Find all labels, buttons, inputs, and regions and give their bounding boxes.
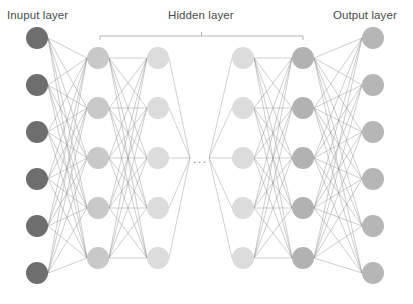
edge-hidden-layer-4-output-layer <box>314 58 362 132</box>
node-hidden-layer-2-5 <box>147 247 169 269</box>
node-output-layer-3 <box>362 121 384 143</box>
node-input-layer-5 <box>26 215 48 237</box>
edge-stub-left <box>209 58 232 158</box>
hidden-bracket-path <box>100 36 303 40</box>
node-hidden-layer-3-3 <box>232 147 254 169</box>
node-input-layer-6 <box>26 262 48 284</box>
node-output-layer-2 <box>362 74 384 96</box>
edge-hidden-layer-4-output-layer <box>314 38 362 258</box>
edge-hidden-layer-4-output-layer <box>314 132 362 158</box>
edge-hidden-layer-4-output-layer <box>314 38 362 158</box>
node-output-layer-1 <box>362 27 384 49</box>
edge-input-layer-hidden-layer-1 <box>48 38 87 208</box>
node-hidden-layer-4-1 <box>292 47 314 69</box>
node-hidden-layer-4-4 <box>292 197 314 219</box>
node-hidden-layer-1-2 <box>87 97 109 119</box>
node-hidden-layer-4-5 <box>292 247 314 269</box>
edge-stub-left <box>209 158 232 208</box>
edge-hidden-layer-4-output-layer <box>314 38 362 208</box>
edge-input-layer-hidden-layer-1 <box>48 258 87 273</box>
edge-hidden-layer-4-output-layer <box>314 85 362 208</box>
edge-hidden-layer-4-output-layer <box>314 85 362 258</box>
edge-stub-left <box>209 108 232 158</box>
node-hidden-layer-1-5 <box>87 247 109 269</box>
edge-hidden-layer-4-output-layer <box>314 85 362 108</box>
edge-input-layer-hidden-layer-1 <box>48 108 87 226</box>
node-hidden-layer-2-2 <box>147 97 169 119</box>
hidden-layers-ellipsis: ... <box>192 152 209 166</box>
edge-hidden-layer-4-output-layer <box>314 58 362 226</box>
node-hidden-layer-1-3 <box>87 147 109 169</box>
node-hidden-layer-1-1 <box>87 47 109 69</box>
node-input-layer-4 <box>26 168 48 190</box>
edge-stub-right <box>169 58 190 158</box>
edge-input-layer-hidden-layer-1 <box>48 38 87 258</box>
node-hidden-layer-4-3 <box>292 147 314 169</box>
node-hidden-layer-2-3 <box>147 147 169 169</box>
node-hidden-layer-1-4 <box>87 197 109 219</box>
edge-stub-left <box>209 158 232 258</box>
node-hidden-layer-3-4 <box>232 197 254 219</box>
edge-input-layer-hidden-layer-1 <box>48 85 87 108</box>
edge-input-layer-hidden-layer-1 <box>48 132 87 158</box>
node-hidden-layer-3-5 <box>232 247 254 269</box>
edge-stub-right <box>169 108 190 158</box>
edge-hidden-layer-4-output-layer <box>314 38 362 58</box>
edge-stub-right <box>169 158 190 208</box>
output-layer-label: Output layer <box>333 9 397 21</box>
hidden-layer-bracket <box>100 32 303 40</box>
node-hidden-layer-3-2 <box>232 97 254 119</box>
node-hidden-layer-4-2 <box>292 97 314 119</box>
edge-input-layer-hidden-layer-1 <box>48 132 87 258</box>
node-input-layer-3 <box>26 121 48 143</box>
node-input-layer-2 <box>26 74 48 96</box>
edge-stub-right <box>169 158 190 258</box>
node-output-layer-6 <box>362 262 384 284</box>
edge-input-layer-hidden-layer-1 <box>48 85 87 258</box>
node-hidden-layer-2-1 <box>147 47 169 69</box>
edge-hidden-layer-4-output-layer <box>314 208 362 226</box>
edge-hidden-layer-4-output-layer <box>314 258 362 273</box>
node-output-layer-4 <box>362 168 384 190</box>
edge-input-layer-hidden-layer-1 <box>48 58 87 132</box>
edge-hidden-layer-4-output-layer <box>314 108 362 226</box>
input-layer-label: Inuput layer <box>7 9 68 21</box>
edge-input-layer-hidden-layer-1 <box>48 58 87 226</box>
hidden-layer-label: Hidden layer <box>168 9 234 21</box>
edge-input-layer-hidden-layer-1 <box>48 208 87 226</box>
node-input-layer-1 <box>26 27 48 49</box>
node-output-layer-5 <box>362 215 384 237</box>
neural-network-diagram: Inuput layer Hidden layer Output layer .… <box>0 0 413 304</box>
edge-hidden-layer-4-output-layer <box>314 226 362 258</box>
node-hidden-layer-2-4 <box>147 197 169 219</box>
edge-hidden-layer-4-output-layer <box>314 132 362 258</box>
node-hidden-layer-3-1 <box>232 47 254 69</box>
